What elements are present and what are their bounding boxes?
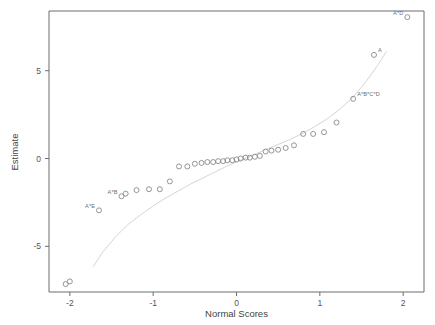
x-tick-label: 1 — [317, 298, 322, 308]
y-tick-label: -5 — [33, 241, 41, 251]
x-tick-label: -2 — [66, 298, 74, 308]
y-tick-label: 0 — [36, 154, 41, 164]
x-tick-label: -1 — [149, 298, 157, 308]
point-annotation: A*B*C*D — [357, 91, 380, 97]
point-annotation: A*B — [108, 189, 118, 195]
figure-background — [0, 0, 435, 325]
plot-canvas: -2-1012 50-5 A*EA*BA*B*C*DAA*D Normal Sc… — [0, 0, 435, 325]
qq-plot-figure: -2-1012 50-5 A*EA*BA*B*C*DAA*D Normal Sc… — [0, 0, 435, 325]
x-tick-label: 0 — [234, 298, 239, 308]
y-tick-label: 5 — [36, 66, 41, 76]
point-annotation: A*E — [85, 203, 95, 209]
point-annotation: A*D — [393, 10, 403, 16]
y-axis-title: Estimate — [9, 134, 20, 171]
point-annotation: A — [378, 47, 382, 53]
x-tick-label: 2 — [401, 298, 406, 308]
x-axis-title: Normal Scores — [205, 308, 268, 319]
